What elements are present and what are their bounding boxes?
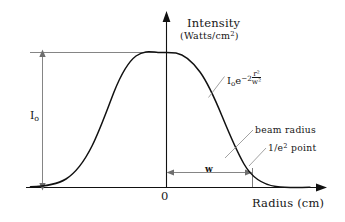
formula-exp-numerator: r²	[252, 70, 261, 77]
y-axis-arrowhead	[163, 11, 171, 22]
peak-intensity-subscript: o	[34, 114, 39, 123]
gaussian-curve	[31, 52, 311, 188]
beam-radius-arrow-left	[167, 170, 175, 176]
x-axis-arrowhead	[316, 184, 327, 192]
gaussian-beam-intensity-figure: Intensity (Watts/cm2) Radius (cm) 0 Io I…	[0, 0, 345, 222]
intensity-formula-label: Ioe−2r²w²	[227, 70, 261, 88]
y-axis-units-label: (Watts/cm2)	[180, 31, 239, 41]
peak-intensity-arrow-top	[39, 50, 45, 58]
peak-intensity-label: Io	[30, 110, 39, 124]
y-axis-label: Intensity	[187, 17, 240, 29]
formula-exponent-fraction: r²w²	[252, 70, 261, 86]
origin-label: 0	[161, 190, 168, 202]
formula-exp-denominator: w²	[252, 77, 261, 85]
beam-radius-annotation: beam radius	[255, 125, 316, 135]
x-axis-label: Radius (cm)	[252, 197, 324, 209]
formula-leader-line	[209, 77, 225, 98]
one-over-e2-point-annotation: 1/e2 point	[268, 143, 316, 153]
figure-canvas	[0, 0, 345, 222]
beam-radius-symbol-label: w	[205, 165, 213, 175]
one-over-e2-leader-line	[249, 148, 266, 166]
formula-exp-coefficient: −2	[241, 74, 252, 83]
